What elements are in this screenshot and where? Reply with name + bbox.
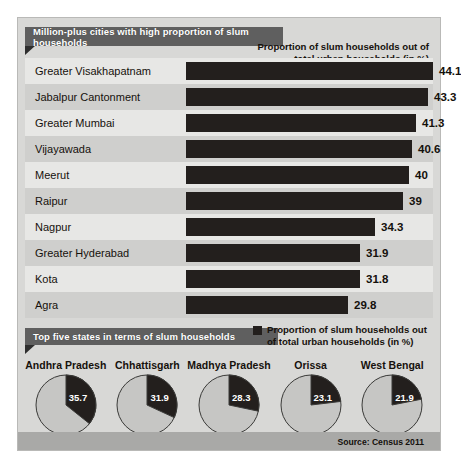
- infographic-panel: Million-plus cities with high proportion…: [18, 18, 440, 450]
- pie-value-label: 23.1: [314, 392, 333, 403]
- bar-category-label: Meerut: [35, 162, 69, 188]
- bar-value-label: 43.3: [434, 88, 456, 106]
- bar-category-label: Greater Hyderabad: [35, 240, 129, 266]
- bar-row: Greater Visakhapatnam44.1: [25, 58, 433, 84]
- bar-fill: [186, 88, 428, 106]
- bar-value-label: 31.9: [366, 244, 388, 262]
- bar-row: Greater Mumbai41.3: [25, 110, 433, 136]
- bar-track: 40.6: [186, 140, 433, 158]
- bar-category-label: Vijayawada: [35, 136, 91, 162]
- bar-row: Meerut40: [25, 162, 433, 188]
- bar-row: Jabalpur Cantonment43.3: [25, 84, 433, 110]
- pie-cell: Andhra Pradesh35.7: [27, 359, 105, 436]
- bar-fill: [186, 166, 409, 184]
- pie-value-label: 21.9: [395, 392, 414, 403]
- pie-value-label: 28.3: [232, 392, 251, 403]
- bar-track: 31.9: [186, 244, 433, 262]
- bar-fill: [186, 296, 348, 314]
- bar-row: Greater Hyderabad31.9: [25, 240, 433, 266]
- pie-chart: 28.3: [198, 374, 260, 436]
- bar-category-label: Jabalpur Cantonment: [35, 84, 140, 110]
- bar-row: Nagpur34.3: [25, 214, 433, 240]
- bar-fill: [186, 244, 360, 262]
- bar-value-label: 39: [409, 192, 422, 210]
- states-pie-section: Proportion of slum households out of tot…: [25, 345, 433, 437]
- bar-category-label: Greater Visakhapatnam: [35, 58, 151, 84]
- bar-value-label: 44.1: [439, 62, 461, 80]
- pie-cell: Chhattisgarh31.9: [108, 359, 186, 436]
- bar-track: 43.3: [186, 88, 433, 106]
- bar-fill: [186, 62, 433, 80]
- bar-value-label: 40: [415, 166, 428, 184]
- bar-row: Kota31.8: [25, 266, 433, 292]
- bar-track: 41.3: [186, 114, 433, 132]
- pie-chart: 23.1: [280, 374, 342, 436]
- bar-fill: [186, 140, 412, 158]
- source-note: Source: Census 2011: [338, 437, 424, 447]
- bar-row: Raipur39: [25, 188, 433, 214]
- pie-cell: West Bengal21.9: [353, 359, 431, 436]
- bar-category-label: Greater Mumbai: [35, 110, 114, 136]
- bar-track: 31.8: [186, 270, 433, 288]
- states-section-banner: Top five states in terms of slum househo…: [25, 328, 278, 345]
- bar-track: 40: [186, 166, 433, 184]
- pie-chart: 35.7: [35, 374, 97, 436]
- bar-fill: [186, 270, 360, 288]
- pie-cell: Orissa23.1: [272, 359, 350, 436]
- pie-category-label: Andhra Pradesh: [25, 359, 106, 371]
- bar-track: 29.8: [186, 296, 433, 314]
- bar-fill: [186, 192, 403, 210]
- pie-chart: 31.9: [116, 374, 178, 436]
- pie-legend: Proportion of slum households out of tot…: [253, 324, 429, 347]
- bar-row: Vijayawada40.6: [25, 136, 433, 162]
- bar-fill: [186, 114, 416, 132]
- legend-label: Proportion of slum households out of tot…: [267, 324, 429, 347]
- bar-category-label: Raipur: [35, 188, 67, 214]
- bar-category-label: Agra: [35, 292, 58, 318]
- bar-chart: Greater Visakhapatnam44.1Jabalpur Canton…: [25, 58, 433, 318]
- pie-chart: 21.9: [361, 374, 423, 436]
- bar-track: 44.1: [186, 62, 433, 80]
- bar-category-label: Kota: [35, 266, 58, 292]
- bar-fill: [186, 218, 375, 236]
- bar-value-label: 29.8: [354, 296, 376, 314]
- cities-section-banner: Million-plus cities with high proportion…: [25, 27, 283, 46]
- pie-category-label: Madhya Pradesh: [187, 359, 270, 371]
- pie-category-label: Chhattisgarh: [115, 359, 180, 371]
- bar-track: 39: [186, 192, 433, 210]
- bar-category-label: Nagpur: [35, 214, 71, 240]
- ribbon-fold-icon: [25, 46, 35, 55]
- pie-chart-row: Andhra Pradesh35.7Chhattisgarh31.9Madhya…: [25, 359, 433, 436]
- bar-value-label: 41.3: [422, 114, 444, 132]
- bar-track: 34.3: [186, 218, 433, 236]
- bar-value-label: 31.8: [366, 270, 388, 288]
- bar-value-label: 40.6: [418, 140, 440, 158]
- legend-swatch-icon: [253, 326, 262, 335]
- pie-category-label: West Bengal: [361, 359, 424, 371]
- pie-category-label: Orissa: [294, 359, 327, 371]
- pie-value-label: 31.9: [150, 392, 169, 403]
- pie-cell: Madhya Pradesh28.3: [190, 359, 268, 436]
- bar-row: Agra29.8: [25, 292, 433, 318]
- pie-value-label: 35.7: [69, 392, 88, 403]
- bar-value-label: 34.3: [381, 218, 403, 236]
